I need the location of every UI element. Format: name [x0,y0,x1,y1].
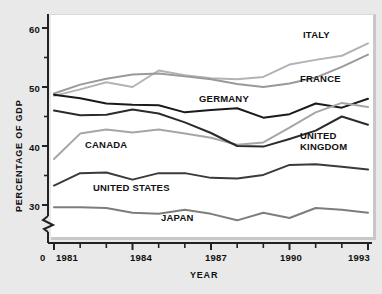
x-axis-title: YEAR [190,270,218,280]
y-axis-title: PERCENTAGE OF GDP [14,100,24,212]
y-tick-label-30: 30 [29,201,40,212]
x-tick-label-1987: 1987 [205,252,227,263]
x-tick-label-1990: 1990 [280,252,302,263]
chart-figure: PERCENTAGE OF GDP 60 50 40 30 0 1981 198… [0,0,382,294]
series-label-united-states: UNITED STATES [93,182,170,193]
y-tick-label-50: 50 [29,83,40,94]
series-line-japan [54,207,368,220]
series-label-france: FRANCE [300,73,341,84]
x-tick-label-1993: 1993 [348,252,370,263]
series-label-united-kingdom-line2: KINGDOM [300,141,347,152]
origin-label-zero: 0 [40,252,45,263]
series-label-italy: ITALY [303,29,330,40]
series-label-germany: GERMANY [199,93,249,104]
x-tick-label-1981: 1981 [56,252,78,263]
series-label-canada: CANADA [85,139,127,150]
series-line-italy [54,43,368,96]
series-label-united-kingdom-line1: UNITED [300,130,337,141]
y-axis-break-zigzag [43,216,53,232]
y-tick-label-40: 40 [29,142,40,153]
series-label-japan: JAPAN [161,212,194,223]
x-tick-label-1984: 1984 [130,252,152,263]
y-tick-label-60: 60 [29,24,40,35]
